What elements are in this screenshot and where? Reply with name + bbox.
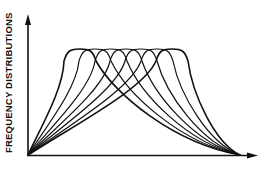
distribution-curve: [28, 49, 240, 155]
distribution-curve: [28, 49, 240, 155]
x-axis-arrow-icon: [247, 153, 258, 159]
distribution-curve: [28, 49, 240, 155]
y-axis-label: FREQUENCY DISTRIBUTIONS: [3, 13, 15, 153]
distribution-curve: [28, 49, 240, 155]
distribution-curve: [28, 49, 240, 155]
distribution-curve: [28, 49, 240, 155]
frequency-distribution-chart: [0, 0, 270, 176]
distribution-curve: [28, 49, 240, 155]
distribution-curves: [28, 49, 240, 155]
y-axis-arrow-icon: [25, 14, 31, 25]
